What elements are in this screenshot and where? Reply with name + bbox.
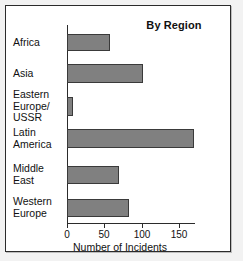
bar-latin-america [67, 129, 194, 148]
category-label-line: Middle [13, 163, 65, 175]
category-label-western-europe: Western Europe [13, 196, 65, 219]
bar-middle-east [67, 166, 119, 184]
x-tick-label-150: 150 [164, 229, 194, 240]
category-label-africa: Africa [13, 37, 65, 49]
x-tick-label-50: 50 [89, 229, 119, 240]
category-label-middle-east: Middle East [13, 163, 65, 186]
category-label-line: Eastern [13, 89, 65, 101]
bar-eastern-europe-ussr [67, 97, 73, 116]
category-label-line: Asia [13, 68, 65, 80]
category-label-asia: Asia [13, 68, 65, 80]
chart-title: By Region [126, 19, 222, 31]
chart-figure: By Region 0 50 100 150 Number of Inciden… [0, 0, 243, 261]
chart-frame: By Region 0 50 100 150 Number of Inciden… [5, 5, 231, 252]
x-tick-50 [104, 224, 105, 228]
y-axis-line [67, 25, 68, 224]
x-axis-title: Number of Incidents [30, 241, 210, 253]
category-label-line: East [13, 175, 65, 187]
bar-western-europe [67, 199, 129, 217]
x-tick-label-0: 0 [52, 229, 82, 240]
bar-asia [67, 64, 143, 83]
x-tick-label-100: 100 [127, 229, 157, 240]
x-tick-0 [67, 224, 68, 228]
plot-area: By Region 0 50 100 150 Number of Inciden… [6, 6, 232, 253]
x-tick-150 [179, 224, 180, 228]
category-label-line: Western [13, 196, 65, 208]
x-tick-100 [142, 224, 143, 228]
category-label-line: America [13, 139, 65, 151]
category-label-latin-america: Latin America [13, 127, 65, 150]
x-axis-line [67, 223, 195, 224]
category-label-line: USSR [13, 112, 65, 124]
bar-africa [67, 34, 110, 51]
category-label-line: Europe [13, 208, 65, 220]
category-label-line: Africa [13, 37, 65, 49]
category-label-eastern-europe-ussr: Eastern Europe/ USSR [13, 89, 65, 124]
category-label-line: Latin [13, 127, 65, 139]
